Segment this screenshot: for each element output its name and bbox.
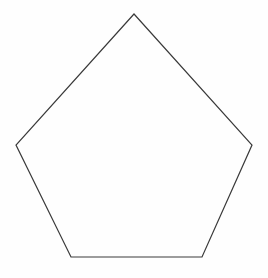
pentagon-figure-svg xyxy=(0,0,268,278)
drawing-canvas xyxy=(0,0,268,278)
canvas-background xyxy=(0,0,268,278)
